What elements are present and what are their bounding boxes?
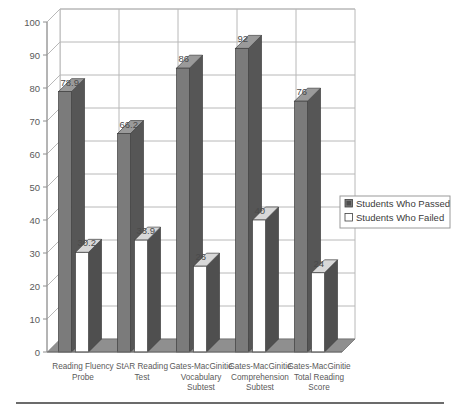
x-axis-category-label-2: Test [134,373,150,382]
bar-failed-2-front [135,240,148,352]
x-axis-category-label-4: Gates-MacGinitie [228,362,292,371]
x-axis-category-label-4: Comprehension [231,373,289,382]
y-axis-tick-label: 50 [29,182,40,193]
bar-failed-5-side [325,260,338,352]
bar-passed-2-front [118,134,131,352]
bar-failed-1 [76,239,102,352]
bar-label-passed-2: 66.2 [120,119,139,130]
bar-passed-5-front [295,101,308,352]
bar-passed-4-front [236,48,249,352]
bar-passed-3-front [177,68,190,352]
x-axis-category-label-1: Reading Fluency [52,362,114,371]
x-axis-category-label-5: Gates-MacGinitie [287,362,351,371]
bar-label-failed-1: 30.2 [78,237,97,248]
legend-label-2: Students Who Failed [356,212,444,223]
x-axis-category-label-3: Subtest [187,383,215,392]
x-axis-category-label-5: Total Reading [294,373,345,382]
bar-label-passed-4: 92 [238,33,249,44]
y-axis-tick-label: 60 [29,149,40,160]
legend-swatch-2 [345,214,353,222]
y-axis-tick-label: 10 [29,314,40,325]
x-axis-category-label-1: Probe [72,373,94,382]
x-axis-category-label-5: Score [308,383,330,392]
bar-label-failed-4: 40 [255,205,266,216]
y-axis-tick-label: 70 [29,116,40,127]
y-axis-tick-label: 80 [29,83,40,94]
bar-failed-5 [312,260,338,352]
y-axis-tick-label: 0 [35,347,40,358]
bar-failed-1-side [89,239,102,352]
bar-failed-4 [253,207,279,352]
bar-failed-2 [135,227,161,352]
y-axis-tick-label: 20 [29,281,40,292]
bar-label-passed-5: 76 [297,86,308,97]
bar-label-failed-2: 33.9 [137,225,156,236]
bar-failed-4-front [253,220,266,352]
y-axis-tick-label: 100 [24,17,40,28]
y-axis-tick-label: 40 [29,215,40,226]
y-axis-tick-label: 90 [29,50,40,61]
x-axis-category-label-3: Vocabulary [181,373,222,382]
bar-failed-4-side [266,207,279,352]
x-axis-category-label-4: Subtest [246,383,274,392]
bar-label-failed-3: 26 [196,251,207,262]
x-axis-category-label-2: StAR Reading [116,362,168,371]
bar-failed-2-side [148,227,161,352]
bar-failed-3-front [194,266,207,352]
bar-chart: 010203040506070809010078.930.266.233.986… [0,0,461,413]
bar-label-passed-1: 78.9 [61,77,80,88]
x-axis-category-label-3: Gates-MacGinitie [169,362,233,371]
bar-passed-1-front [59,92,72,352]
bar-label-failed-5: 24 [314,258,325,269]
bar-failed-1-front [76,252,89,352]
bar-failed-3 [194,253,220,352]
bar-failed-5-front [312,273,325,352]
bar-label-passed-3: 86 [179,53,190,64]
legend-label-1: Students Who Passed [356,198,450,209]
chart-canvas: 010203040506070809010078.930.266.233.986… [0,0,461,413]
legend-swatch-inner-1 [347,201,352,206]
bar-failed-3-side [207,253,220,352]
y-axis-tick-label: 30 [29,248,40,259]
